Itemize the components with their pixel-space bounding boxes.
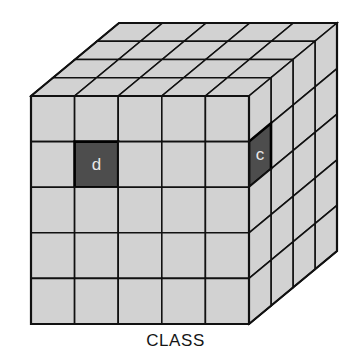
front-face-cell	[118, 96, 162, 142]
cube-svg-canvas: cd	[0, 0, 351, 364]
front-face-cell	[205, 96, 249, 142]
front-face-cell	[162, 233, 206, 279]
diagram-caption: CLASS	[0, 331, 351, 351]
front-face-cell	[162, 278, 206, 324]
front-face-cell	[162, 187, 206, 233]
front-face-cell	[31, 142, 75, 188]
front-face-cell	[118, 278, 162, 324]
front-face-cell	[75, 278, 119, 324]
front-face-cell	[31, 96, 75, 142]
front-face-cell	[205, 142, 249, 188]
cube-front-face	[31, 96, 249, 324]
front-face-cell	[75, 233, 119, 279]
front-face-cell	[205, 187, 249, 233]
front-face-cell	[31, 187, 75, 233]
cube-diagram: cd CLASS	[0, 0, 351, 364]
front-face-cell	[118, 187, 162, 233]
front-face-cell	[162, 142, 206, 188]
front-face-cell	[205, 278, 249, 324]
front-face-cell	[31, 278, 75, 324]
front-face-cell	[75, 187, 119, 233]
cell-label-d: d	[92, 155, 101, 174]
front-face-cell	[118, 233, 162, 279]
front-face-cell	[118, 142, 162, 188]
cell-label-c: c	[256, 145, 265, 164]
front-face-cell	[75, 96, 119, 142]
front-face-cell	[205, 233, 249, 279]
front-face-cell	[162, 96, 206, 142]
front-face-cell	[31, 233, 75, 279]
